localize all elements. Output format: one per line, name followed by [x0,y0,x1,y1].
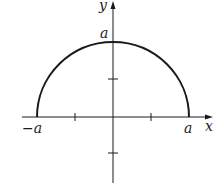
y-axis-label: y [98,0,108,13]
x-axis-label: x [205,118,213,134]
semicircle-diagram: y a −a a x [0,0,222,186]
x-axis [22,115,213,120]
right-intercept-label: a [184,120,192,136]
top-intercept-label: a [100,25,108,41]
left-intercept-label: −a [22,120,42,136]
y-axis-arrow-icon [111,1,116,9]
y-axis [111,1,116,183]
